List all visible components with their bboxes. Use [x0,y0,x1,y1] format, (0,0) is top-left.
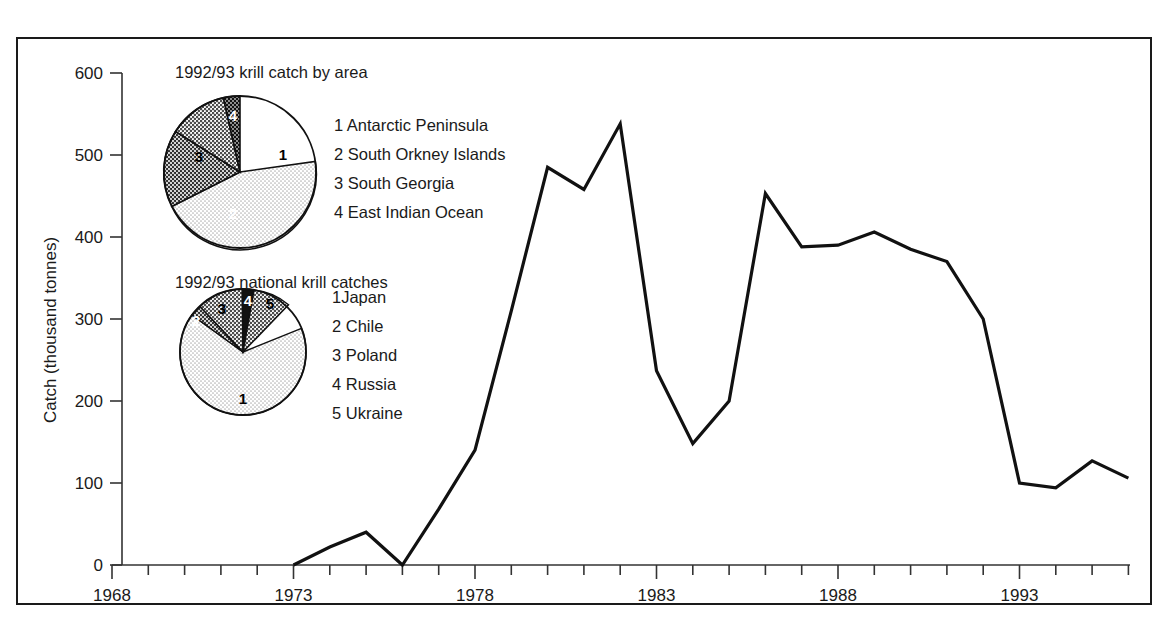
pie-area-legend-item-2: 2 South Orkney Islands [334,145,506,163]
x-tick-label-1988: 1988 [819,586,857,605]
x-tick-label-1993: 1993 [1001,586,1039,605]
pie-national-slice-label-4: 4 [244,292,253,309]
pie-national-slice-label-3: 3 [218,300,226,317]
y-tick-label-300: 300 [75,310,103,329]
pie-national-slice-label-5: 5 [266,295,274,312]
pie-chart-national-catches: 1992/93 national krill catches 1 2 3 4 5… [175,273,403,422]
pie-national-legend: 1Japan 2 Chile 3 Poland 4 Russia 5 Ukrai… [332,288,403,422]
y-tick-label-500: 500 [75,146,103,165]
x-axis: 1968 1973 1978 1983 1988 1993 [93,565,1130,605]
pie-area-slice-label-4: 4 [229,107,238,124]
y-tick-label-400: 400 [75,228,103,247]
pie-national-slice-label-2: 2 [192,312,200,329]
x-tick-label-1973: 1973 [275,586,313,605]
x-tick-label-1983: 1983 [638,586,676,605]
pie-area-legend-item-4: 4 East Indian Ocean [334,203,484,221]
krill-catch-line-chart: 600 500 400 300 200 100 0 Catch (thousan… [0,0,1170,638]
y-axis-title: Catch (thousand tonnes) [41,237,60,423]
pie-national-legend-item-3: 3 Poland [332,346,397,364]
pie-area-title: 1992/93 krill catch by area [175,63,368,81]
x-tick-marks [112,565,1128,579]
x-tick-label-1978: 1978 [456,586,494,605]
pie-area-slice-label-3: 3 [195,148,203,165]
y-tick-label-200: 200 [75,392,103,411]
y-tick-label-100: 100 [75,474,103,493]
y-tick-label-600: 600 [75,64,103,83]
y-axis: 600 500 400 300 200 100 0 Catch (thousan… [41,64,122,575]
pie-national-slice-label-1: 1 [239,390,247,407]
pie-area-legend: 1 Antarctic Peninsula 2 South Orkney Isl… [334,116,506,221]
x-tick-label-1968: 1968 [93,586,131,605]
pie-chart-catch-by-area: 1992/93 krill catch by area 1 2 3 4 1 An… [164,63,506,250]
pie-national-legend-item-5: 5 Ukraine [332,404,403,422]
pie-area-slice-label-1: 1 [279,146,287,163]
figure-container: 600 500 400 300 200 100 0 Catch (thousan… [0,0,1170,638]
pie-area-slice-label-2: 2 [229,205,237,222]
pie-area-legend-item-1: 1 Antarctic Peninsula [334,116,489,134]
pie-area-legend-item-3: 3 South Georgia [334,174,455,192]
pie-national-legend-item-1: 1Japan [332,288,386,306]
y-tick-label-0: 0 [94,556,103,575]
pie-national-legend-item-2: 2 Chile [332,317,383,335]
pie-national-legend-item-4: 4 Russia [332,375,397,393]
